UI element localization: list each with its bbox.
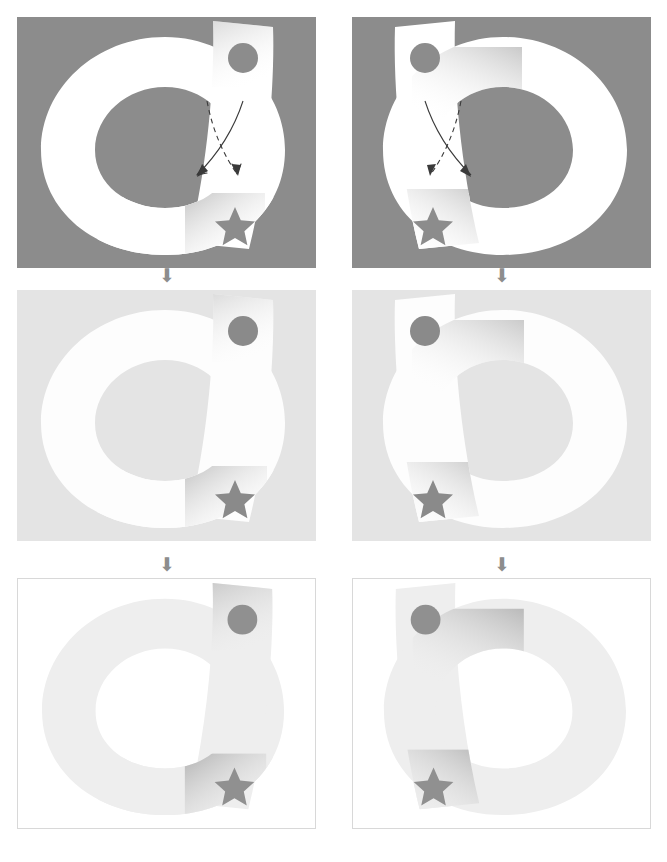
down-arrow-icon: ⬇ xyxy=(159,555,175,574)
figure-canvas: ⬇ ⬇ xyxy=(0,0,667,862)
panel-bottom-right[interactable] xyxy=(352,578,651,829)
circle-marker xyxy=(228,316,258,346)
panel-mid-left[interactable] xyxy=(17,290,316,541)
flow-arrow-right-1: ⬇ xyxy=(487,264,517,286)
circle-marker xyxy=(411,605,441,635)
flow-arrow-right-2: ⬇ xyxy=(487,553,517,575)
circle-marker xyxy=(410,43,440,73)
flow-arrow-left-2: ⬇ xyxy=(152,553,182,575)
panel-bottom-left[interactable] xyxy=(17,578,316,829)
panel-mid-right[interactable] xyxy=(352,290,651,541)
down-arrow-icon: ⬇ xyxy=(159,266,175,285)
panel-top-right[interactable] xyxy=(352,17,651,268)
panel-top-left[interactable] xyxy=(17,17,316,268)
down-arrow-icon: ⬇ xyxy=(494,555,510,574)
circle-marker xyxy=(410,316,440,346)
circle-marker xyxy=(228,43,258,73)
down-arrow-icon: ⬇ xyxy=(494,266,510,285)
flow-arrow-left-1: ⬇ xyxy=(152,264,182,286)
circle-marker xyxy=(228,605,258,635)
